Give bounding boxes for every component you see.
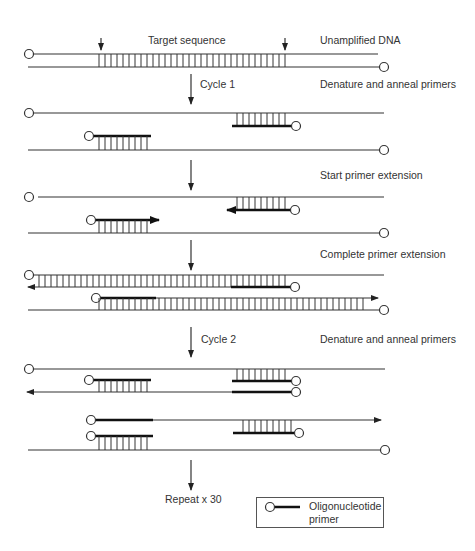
label-denature-anneal-1: Denature and anneal primers — [320, 78, 456, 90]
legend: Oligonucleotide primer — [256, 497, 384, 528]
label-denature-anneal-2: Denature and anneal primers — [320, 333, 456, 345]
complete-extension — [25, 271, 389, 315]
cycle1-anneal — [25, 109, 389, 155]
label-cycle-1: Cycle 1 — [200, 78, 235, 90]
label-target-sequence: Target sequence — [148, 34, 226, 46]
label-start-extension: Start primer extension — [320, 169, 423, 181]
label-complete-extension: Complete primer extension — [320, 248, 445, 260]
legend-text-line2: primer — [309, 513, 381, 526]
legend-text: Oligonucleotide primer — [309, 500, 381, 526]
legend-text-line1: Oligonucleotide — [309, 500, 381, 513]
label-cycle-2: Cycle 2 — [201, 333, 236, 345]
label-repeat: Repeat x 30 — [165, 493, 222, 505]
label-unamplified-dna: Unamplified DNA — [320, 34, 401, 46]
cycle2-anneal — [25, 365, 390, 455]
start-extension — [25, 193, 389, 238]
